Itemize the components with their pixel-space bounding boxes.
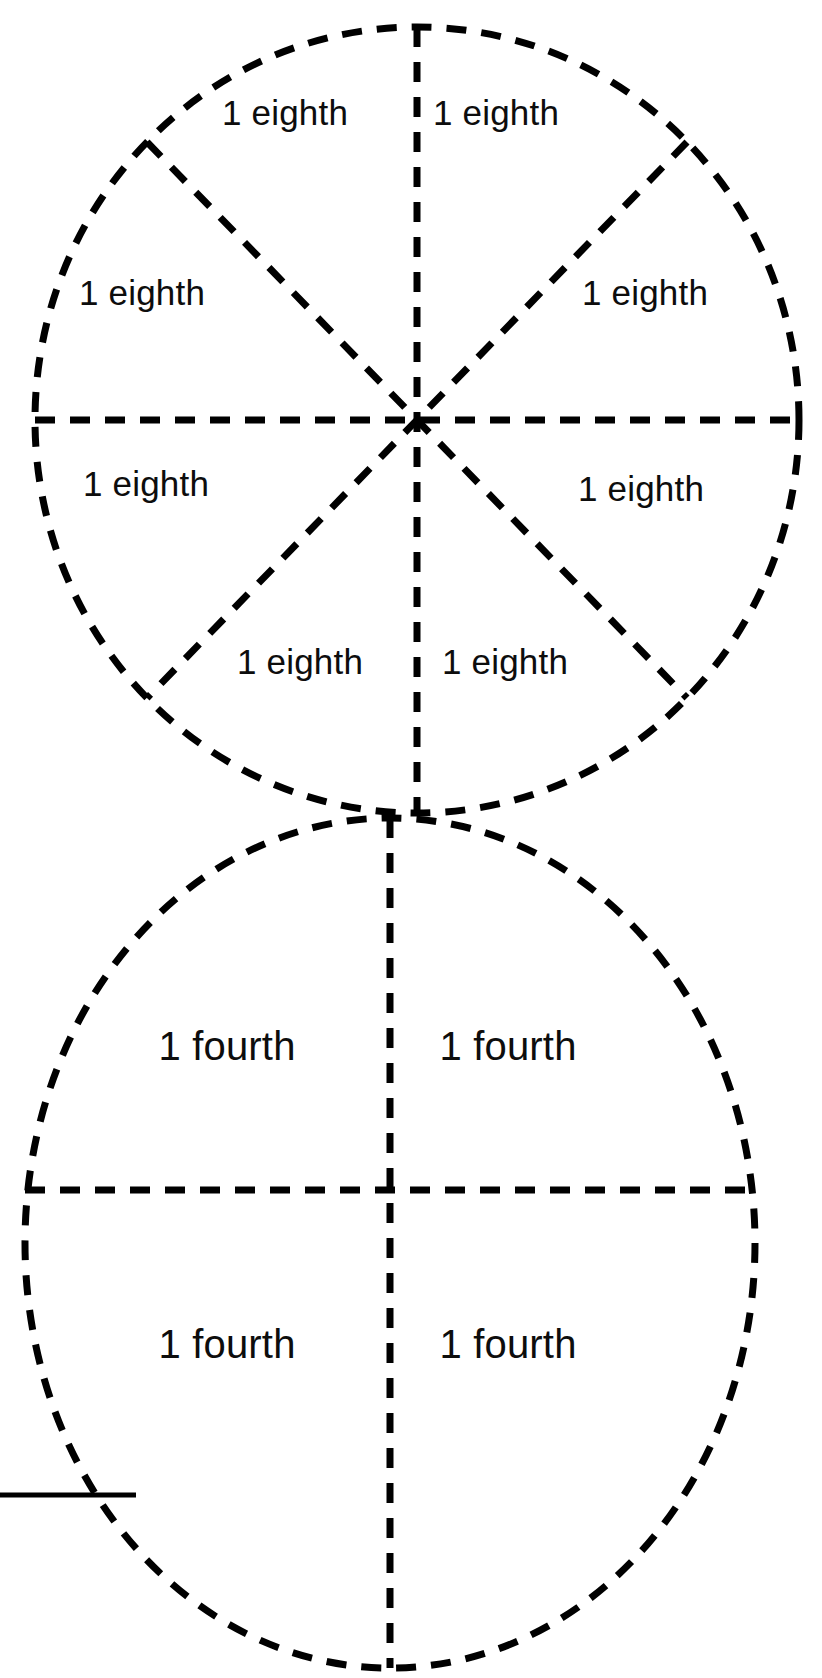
eighths-slice-label: 1 eighth [237,642,363,682]
fourths-circle-group [25,818,755,1668]
eighths-slice-label: 1 eighth [442,642,568,682]
eighths-slice-label: 1 eighth [79,273,205,313]
fourths-slice-label: 1 fourth [158,1322,295,1367]
eighths-slice-label: 1 eighth [433,93,559,133]
fourths-slice-label: 1 fourth [439,1322,576,1367]
eighths-slice-label: 1 eighth [582,273,708,313]
fourths-slice-label: 1 fourth [439,1024,576,1069]
eighths-circle-group [35,27,799,813]
eighths-slice-label: 1 eighth [222,93,348,133]
eighths-slice-label: 1 eighth [83,464,209,504]
eighths-slice-label: 1 eighth [578,469,704,509]
fraction-circles-worksheet: 1 eighth 1 eighth 1 eighth 1 eighth 1 ei… [0,0,822,1678]
fourths-slice-label: 1 fourth [158,1024,295,1069]
fraction-circles-figure [0,0,822,1678]
